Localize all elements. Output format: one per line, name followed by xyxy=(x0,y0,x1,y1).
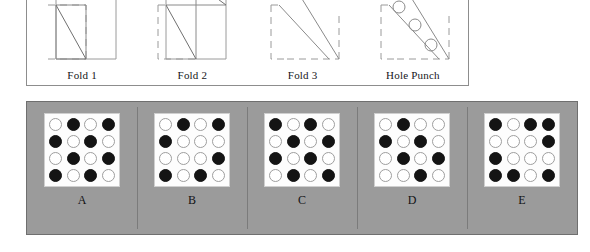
dot-empty-r1c3 xyxy=(414,118,427,131)
dot-empty-r2c3 xyxy=(194,135,207,148)
dot-empty-r4c2 xyxy=(67,169,80,182)
fold-step-label: Hole Punch xyxy=(386,69,440,82)
dot-filled-r3c4 xyxy=(212,152,225,165)
fold-step-fold-1: Fold 1 xyxy=(27,0,137,85)
dot-filled-r2c1 xyxy=(379,135,392,148)
answer-option-e[interactable]: E xyxy=(467,102,577,234)
dot-empty-r4c1 xyxy=(269,169,282,182)
dot-filled-r2c1 xyxy=(159,135,172,148)
dot-filled-r1c2 xyxy=(397,118,410,131)
dot-empty-r1c3 xyxy=(194,118,207,131)
dot-filled-r3c4 xyxy=(102,152,115,165)
dot-filled-r3c1 xyxy=(489,152,502,165)
dot-empty-r3c2 xyxy=(507,152,520,165)
dot-grid[interactable] xyxy=(374,113,450,187)
dot-empty-r2c1 xyxy=(489,135,502,148)
dot-empty-r1c1 xyxy=(49,118,62,131)
dot-empty-r4c3 xyxy=(304,169,317,182)
answer-option-a[interactable]: A xyxy=(27,102,137,234)
fold-step-list: Fold 1 Fold 2 xyxy=(27,0,468,85)
dot-filled-r2c3 xyxy=(84,135,97,148)
dot-filled-r2c1 xyxy=(49,135,62,148)
worksheet-stage: Fold 1 Fold 2 xyxy=(0,0,590,252)
dot-empty-r2c4 xyxy=(102,135,115,148)
dot-empty-r2c4 xyxy=(432,135,445,148)
dot-filled-r4c2 xyxy=(507,169,520,182)
dot-empty-r2c2 xyxy=(177,135,190,148)
dot-empty-r3c2 xyxy=(177,152,190,165)
dot-empty-r1c2 xyxy=(507,118,520,131)
dot-filled-r4c1 xyxy=(49,169,62,182)
fold-step-fold-3: Fold 3 xyxy=(248,0,358,85)
dot-filled-r3c3 xyxy=(304,152,317,165)
dot-empty-r2c1 xyxy=(269,135,282,148)
dot-filled-r4c3 xyxy=(84,169,97,182)
dot-empty-r4c2 xyxy=(177,169,190,182)
dot-filled-r3c2 xyxy=(67,152,80,165)
dot-empty-r3c3 xyxy=(524,152,537,165)
dot-empty-r2c3 xyxy=(524,135,537,148)
dot-empty-r2c4 xyxy=(212,135,225,148)
dot-empty-r3c3 xyxy=(194,152,207,165)
fold-step-label: Fold 2 xyxy=(178,69,208,82)
dot-empty-r4c4 xyxy=(102,169,115,182)
dot-filled-r3c1 xyxy=(269,152,282,165)
paper-folding-sequence-panel: Fold 1 Fold 2 xyxy=(26,0,469,86)
dot-empty-r1c3 xyxy=(84,118,97,131)
dot-filled-r2c4 xyxy=(542,135,555,148)
dot-empty-r1c1 xyxy=(379,118,392,131)
answer-option-c[interactable]: C xyxy=(247,102,357,234)
dot-empty-r4c4 xyxy=(212,169,225,182)
fold-step-hole-punch: Hole Punch xyxy=(358,0,468,85)
dot-empty-r3c1 xyxy=(49,152,62,165)
dot-empty-r3c1 xyxy=(379,152,392,165)
answer-option-b[interactable]: B xyxy=(137,102,247,234)
dot-grid[interactable] xyxy=(44,113,120,187)
dot-filled-r2c4 xyxy=(322,135,335,148)
dot-filled-r4c4 xyxy=(322,169,335,182)
answer-option-label: A xyxy=(78,194,87,207)
dot-filled-r2c2 xyxy=(287,135,300,148)
dot-empty-r4c1 xyxy=(379,169,392,182)
triangle-with-three-holes-icon xyxy=(371,0,455,65)
dot-filled-r1c1 xyxy=(269,118,282,131)
dot-filled-r1c4 xyxy=(212,118,225,131)
dot-empty-r2c2 xyxy=(67,135,80,148)
dot-empty-r3c2 xyxy=(287,152,300,165)
answer-option-label: B xyxy=(188,194,196,207)
square-bottom-left-diagonal-fold-icon xyxy=(40,0,124,65)
dot-filled-r1c2 xyxy=(177,118,190,131)
dot-empty-r2c2 xyxy=(397,135,410,148)
dot-filled-r1c1 xyxy=(489,118,502,131)
dot-grid[interactable] xyxy=(154,113,230,187)
dot-filled-r1c2 xyxy=(67,118,80,131)
dot-grid[interactable] xyxy=(484,113,560,187)
dot-empty-r1c1 xyxy=(159,118,172,131)
dot-empty-r3c4 xyxy=(322,152,335,165)
dot-empty-r3c1 xyxy=(159,152,172,165)
dot-filled-r4c1 xyxy=(159,169,172,182)
dot-filled-r1c3 xyxy=(524,118,537,131)
dot-empty-r4c2 xyxy=(397,169,410,182)
fold-step-fold-2: Fold 2 xyxy=(137,0,247,85)
dot-empty-r4c4 xyxy=(432,169,445,182)
dot-grid[interactable] xyxy=(264,113,340,187)
dot-empty-r3c3 xyxy=(84,152,97,165)
dot-filled-r4c1 xyxy=(489,169,502,182)
dot-filled-r2c3 xyxy=(414,135,427,148)
triangle-diagonal-fold-icon xyxy=(261,0,345,65)
dot-empty-r1c2 xyxy=(287,118,300,131)
dot-empty-r3c3 xyxy=(414,152,427,165)
dot-empty-r1c4 xyxy=(322,118,335,131)
dot-empty-r2c2 xyxy=(507,135,520,148)
answer-option-label: E xyxy=(518,194,525,207)
fold-step-label: Fold 1 xyxy=(67,69,97,82)
dot-empty-r3c4 xyxy=(542,152,555,165)
answer-option-d[interactable]: D xyxy=(357,102,467,234)
square-bottom-half-diagonal-fold-icon xyxy=(150,0,234,65)
dot-filled-r3c2 xyxy=(397,152,410,165)
answer-option-label: D xyxy=(408,194,417,207)
dot-empty-r4c3 xyxy=(524,169,537,182)
fold-step-label: Fold 3 xyxy=(288,69,318,82)
dot-filled-r4c3 xyxy=(414,169,427,182)
